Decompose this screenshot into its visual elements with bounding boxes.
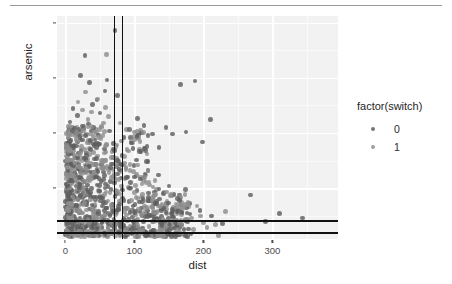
plot-panel [57, 16, 338, 239]
reference-line-vertical [122, 16, 124, 239]
legend-key [366, 127, 380, 132]
scatter-point [78, 151, 83, 156]
scatter-point [185, 202, 190, 207]
scatter-point [83, 133, 88, 138]
scatter-point [186, 227, 191, 232]
scatter-point [98, 111, 103, 116]
scatter-point [134, 158, 139, 163]
scatter-point [101, 133, 106, 138]
scatter-point [103, 89, 108, 94]
scatter-point [80, 108, 85, 113]
legend-entry: 0 [366, 120, 449, 138]
y-tick-mark [53, 77, 56, 78]
scatter-point [142, 175, 147, 180]
scatter-point [75, 224, 80, 229]
scatter-point [142, 123, 147, 128]
scatter-point [65, 157, 70, 162]
scatter-point [158, 204, 163, 209]
y-tick-mark [53, 132, 56, 133]
scatter-point [153, 178, 158, 183]
x-tick-label: 100 [126, 245, 142, 256]
scatter-point [65, 192, 70, 197]
legend-dot-icon [371, 145, 376, 150]
scatter-point [104, 52, 109, 57]
legend-label: 1 [394, 141, 400, 153]
scatter-point [69, 162, 74, 167]
scatter-point [68, 149, 73, 154]
scatter-point [128, 180, 133, 185]
scatter-point [115, 93, 120, 98]
scatter-point [133, 234, 138, 239]
scatter-point [164, 125, 169, 130]
scatter-point [94, 145, 99, 150]
x-axis-title: dist [57, 259, 338, 271]
scatter-point [198, 208, 203, 213]
scatter-point [104, 158, 109, 163]
scatter-point [129, 141, 134, 146]
scatter-point [164, 223, 169, 228]
scatter-point [77, 185, 82, 190]
scatter-point [78, 73, 83, 78]
x-tick-mark [65, 240, 66, 243]
scatter-point [74, 130, 79, 135]
scatter-point [179, 222, 184, 227]
scatter-plot-figure: arsenic dist 2.55.07.510.0 0100200300 fa… [0, 0, 452, 284]
scatter-point [64, 176, 69, 181]
scatter-point [95, 226, 100, 231]
scatter-point [108, 165, 113, 170]
scatter-point [277, 211, 282, 216]
scatter-point [127, 127, 132, 132]
legend-key [366, 145, 380, 150]
scatter-point [76, 100, 81, 105]
legend-entry: 1 [366, 138, 449, 156]
scatter-point [93, 233, 98, 238]
legend: factor(switch) 01 [357, 100, 449, 156]
scatter-point [102, 129, 107, 134]
scatter-point [185, 234, 190, 239]
scatter-point [101, 200, 106, 205]
legend-dot-icon [371, 127, 376, 132]
scatter-point [176, 203, 181, 208]
scatter-point [220, 221, 225, 226]
scatter-point [132, 175, 137, 180]
reference-line-vertical [114, 16, 116, 239]
scatter-point [64, 143, 69, 148]
scatter-point [173, 234, 178, 239]
scatter-point [146, 169, 151, 174]
scatter-point [193, 79, 198, 84]
x-tick-mark [203, 240, 204, 243]
scatter-point [128, 162, 133, 167]
scatter-point [153, 192, 158, 197]
scatter-point [105, 78, 110, 83]
scatter-point [75, 203, 80, 208]
legend-entries: 01 [357, 120, 449, 156]
x-tick-mark [134, 240, 135, 243]
scatter-point [166, 201, 171, 206]
scatter-point [75, 113, 80, 118]
scatter-point [178, 82, 183, 87]
scatter-point [84, 153, 89, 158]
scatter-point [248, 193, 253, 198]
scatter-point [205, 225, 210, 230]
scatter-point [213, 222, 218, 227]
scatter-point [93, 175, 98, 180]
scatter-point [95, 162, 100, 167]
scatter-point [200, 140, 205, 145]
scatter-point [142, 210, 147, 215]
scatter-point [96, 135, 101, 140]
scatter-point [66, 208, 71, 213]
scatter-point [140, 182, 145, 187]
scatter-point [131, 204, 136, 209]
scatter-point [198, 214, 203, 219]
scatter-point [74, 144, 79, 149]
reference-line-horizontal [57, 232, 338, 234]
scatter-point [107, 129, 112, 134]
scatter-point [102, 213, 107, 218]
x-tick-label: 200 [195, 245, 211, 256]
scatter-point [87, 80, 92, 85]
scatter-point [124, 175, 129, 180]
scatter-point [184, 130, 189, 135]
scatter-point [99, 158, 104, 163]
scatter-point [209, 214, 214, 219]
scatter-point [145, 214, 150, 219]
